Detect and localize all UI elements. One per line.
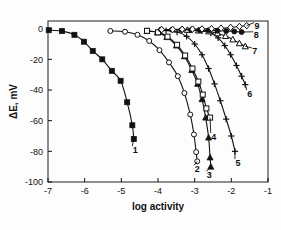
data-point-marker-plus — [211, 81, 217, 87]
data-point-marker-open-square — [165, 34, 170, 39]
data-point-marker-open-circle — [191, 132, 196, 137]
curve-label-4: 4 — [211, 132, 216, 142]
data-point-marker-plus — [217, 98, 223, 104]
data-point-marker-filled-triangle — [207, 154, 213, 160]
data-point-marker-plus — [228, 52, 234, 58]
y-tick-label: -20 — [30, 55, 43, 65]
data-point-marker-open-square — [183, 53, 188, 58]
curve-2 — [108, 28, 200, 163]
data-point-marker-open-circle — [135, 32, 140, 37]
data-point-marker-open-circle — [194, 150, 199, 155]
data-point-marker-plus — [199, 52, 205, 58]
data-point-marker-open-square — [145, 28, 150, 33]
curve-1 — [46, 28, 136, 142]
data-point-marker-plus — [223, 116, 229, 122]
x-axis-title: log activity — [132, 201, 185, 212]
data-point-marker-open-diamond — [237, 23, 243, 30]
data-point-marker-open-square — [175, 42, 180, 47]
x-tick-label: -2 — [227, 186, 235, 196]
data-point-marker-plus — [239, 73, 245, 79]
curve-line-2 — [110, 31, 197, 161]
data-point-marker-open-triangle — [242, 43, 248, 49]
x-tick-label: -4 — [154, 186, 162, 196]
data-point-marker-open-square — [196, 79, 201, 84]
data-point-marker-open-circle — [167, 60, 172, 65]
data-point-marker-filled-square — [81, 39, 86, 44]
data-point-marker-filled-circle — [224, 28, 229, 33]
data-point-marker-plus — [206, 65, 212, 71]
x-tick-label: -1 — [264, 186, 272, 196]
curve-label-2: 2 — [195, 164, 200, 174]
y-tick-label: -100 — [25, 177, 43, 187]
data-point-marker-plus — [233, 62, 239, 68]
y-tick-label: -40 — [30, 85, 43, 95]
data-point-marker-filled-circle — [232, 29, 237, 34]
data-point-marker-open-circle — [188, 112, 193, 117]
data-point-marker-open-circle — [147, 38, 152, 43]
chart-plot: -7-6-5-4-3-2-1 0-20-40-60-80-100 1234567… — [0, 0, 281, 230]
data-curves — [46, 22, 249, 169]
data-point-marker-filled-square — [46, 28, 51, 33]
data-point-marker-filled-square — [90, 48, 95, 53]
data-point-marker-filled-square — [72, 32, 77, 37]
y-tick-label: 0 — [38, 24, 43, 34]
data-point-marker-open-circle — [157, 48, 162, 53]
data-point-marker-open-circle — [123, 29, 128, 34]
curve-line-1 — [49, 30, 134, 139]
curve-label-8: 8 — [254, 30, 259, 40]
curve-label-6: 6 — [247, 89, 252, 99]
data-point-marker-open-circle — [175, 74, 180, 79]
data-point-marker-filled-square — [125, 100, 130, 105]
y-tick-label: -60 — [30, 116, 43, 126]
x-tick-label: -5 — [117, 186, 125, 196]
data-point-marker-open-square — [200, 92, 205, 97]
data-point-marker-open-square — [204, 106, 209, 111]
data-point-marker-filled-square — [109, 68, 114, 73]
data-point-marker-open-triangle — [230, 36, 236, 42]
y-tick-label: -80 — [30, 147, 43, 157]
data-point-marker-filled-square — [59, 29, 64, 34]
data-point-marker-filled-square — [130, 123, 135, 128]
figure-container: -7-6-5-4-3-2-1 0-20-40-60-80-100 1234567… — [0, 0, 281, 230]
curve-label-3: 3 — [207, 170, 212, 180]
x-tick-label: -3 — [191, 186, 199, 196]
curve-label-1: 1 — [133, 145, 138, 155]
data-point-marker-open-square — [190, 66, 195, 71]
data-point-marker-open-circle — [182, 91, 187, 96]
curve-label-9: 9 — [254, 21, 259, 31]
data-point-marker-open-triangle — [236, 40, 242, 46]
x-tick-label: -6 — [81, 186, 89, 196]
curve-label-7: 7 — [252, 46, 257, 56]
y-axis-title: ΔE, mV — [8, 84, 19, 119]
data-point-marker-filled-square — [118, 78, 123, 83]
data-point-marker-filled-square — [100, 57, 105, 62]
data-point-marker-plus — [228, 133, 234, 139]
x-tick-label: -7 — [44, 186, 52, 196]
x-axis-ticks: -7-6-5-4-3-2-1 — [44, 178, 272, 196]
data-point-marker-open-circle — [108, 28, 113, 33]
curve-label-5: 5 — [235, 158, 240, 168]
